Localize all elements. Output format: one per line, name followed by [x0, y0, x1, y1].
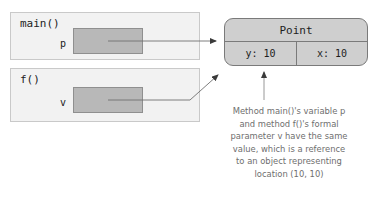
object-field-y: y: 10 [225, 42, 296, 66]
diagram-canvas: main() p f() v Point y: 10 x: 10 [0, 0, 378, 200]
object-field-x: x: 10 [296, 42, 367, 66]
object-type-name: Point [225, 19, 367, 42]
caption-line: and method f()'s formal [206, 118, 372, 131]
variable-label-v: v [40, 97, 66, 108]
heap-object-point: Point y: 10 x: 10 [224, 18, 368, 66]
caption-line: parameter v have the same [206, 130, 372, 143]
f-frame-title: f() [20, 73, 40, 86]
variable-slot-v [73, 87, 143, 113]
variable-label-p: p [40, 38, 66, 49]
caption-line: value, which is a reference [206, 143, 372, 156]
caption-text: Method main()'s variable p and method f(… [206, 105, 372, 181]
main-frame-title: main() [20, 17, 60, 30]
caption-line: location (10, 10) [206, 168, 372, 181]
caption-line: Method main()'s variable p [206, 105, 372, 118]
object-fields-row: y: 10 x: 10 [225, 42, 367, 66]
caption-line: to an object representing [206, 155, 372, 168]
variable-slot-p [73, 28, 143, 54]
